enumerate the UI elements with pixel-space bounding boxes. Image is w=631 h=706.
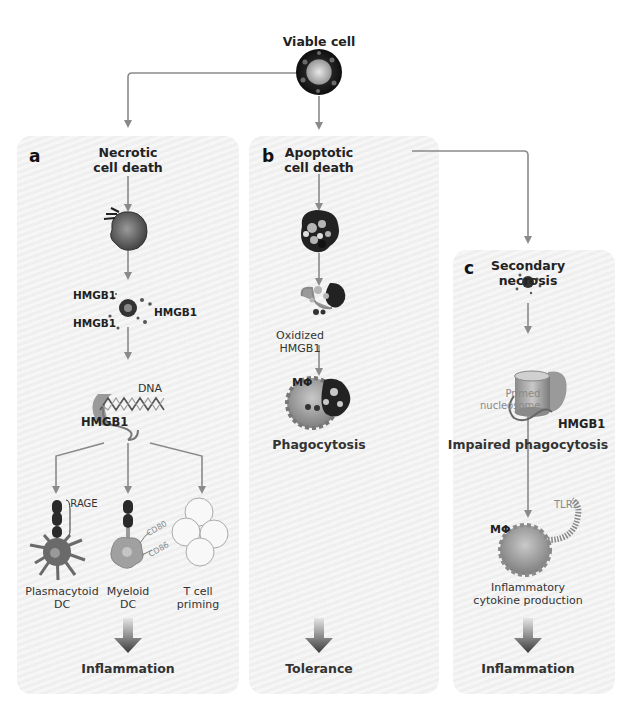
hmgb1-label-1: HMGB1	[73, 289, 116, 301]
t-cell-cluster-icon	[172, 498, 228, 566]
hmgb1-label-2: HMGB1	[73, 317, 116, 329]
myeloid-line2: DC	[107, 598, 150, 611]
oxidized-hmgb1-label: Oxidized HMGB1	[276, 329, 324, 355]
panel-c-letter: c	[464, 258, 474, 278]
panel-c-title-line1: Secondary	[491, 258, 565, 273]
panel-c-outcome: Inflammation	[481, 661, 574, 676]
impaired-phagocytosis-label: Impaired phagocytosis	[448, 437, 608, 452]
hmgb1-bound-label: HMGB1	[81, 415, 128, 429]
tcell-line1: T cell	[177, 585, 219, 598]
viable-cell-label: Viable cell	[283, 34, 356, 49]
panel-b-title-line2: cell death	[284, 160, 354, 175]
macrophage-label-b: MΦ	[292, 376, 312, 389]
oxidized-hmgb1-apoptotic-body-icon	[302, 283, 346, 315]
apoptotic-cell-icon	[301, 210, 339, 252]
panel-b-title: Apoptotic cell death	[284, 145, 354, 175]
panel-a-outcome: Inflammation	[81, 661, 174, 676]
plasmacytoid-line1: Plasmacytoid	[25, 585, 98, 598]
t-cell-priming-label: T cell priming	[177, 585, 219, 611]
macrophage-tlr2-icon	[500, 500, 578, 575]
myeloid-line1: Myeloid	[107, 585, 150, 598]
panel-a-title-line1: Necrotic	[93, 145, 163, 160]
panel-a-letter: a	[29, 146, 40, 166]
dna-label: DNA	[138, 382, 162, 395]
cytokine-line2: cytokine production	[473, 594, 582, 607]
oxidized-line1: Oxidized	[276, 329, 324, 342]
oxidized-line2: HMGB1	[276, 342, 324, 355]
panel-b-outcome: Tolerance	[285, 661, 353, 676]
nucleosome-line2: nucleosome	[480, 400, 540, 412]
panel-a-title: Necrotic cell death	[93, 145, 163, 175]
myeloid-dc-icon	[111, 500, 152, 568]
outcome-arrows	[114, 618, 542, 653]
primed-nucleosome-label: Primed nucleosome	[480, 388, 540, 412]
viable-cell-icon	[297, 50, 341, 94]
macrophage-label-c: MΦ	[490, 523, 510, 536]
panel-c-title: Secondary necrosis	[491, 258, 565, 288]
myeloid-dc-label: Myeloid DC	[107, 585, 150, 611]
phagocytosis-label: Phagocytosis	[272, 437, 365, 452]
plasmacytoid-dc-icon	[30, 500, 85, 580]
nucleosome-line1: Primed	[480, 388, 540, 400]
plasmacytoid-dc-label: Plasmacytoid DC	[25, 585, 98, 611]
panel-a-title-line2: cell death	[93, 160, 163, 175]
hmgb1-label-c: HMGB1	[558, 417, 605, 431]
tcell-line2: priming	[177, 598, 219, 611]
necrotic-cell-icon	[104, 208, 147, 250]
rage-label: RAGE	[70, 497, 97, 510]
panel-c-title-line2: necrosis	[491, 273, 565, 288]
arrowheads	[52, 120, 532, 518]
panel-b-title-line1: Apoptotic	[284, 145, 354, 160]
plasmacytoid-line2: DC	[25, 598, 98, 611]
cytokine-line1: Inflammatory	[473, 581, 582, 594]
tlr2-label: TLR2	[554, 499, 579, 511]
panel-b-letter: b	[262, 146, 274, 166]
hmgb1-label-3: HMGB1	[154, 306, 197, 318]
cytokine-production-label: Inflammatory cytokine production	[473, 581, 582, 607]
